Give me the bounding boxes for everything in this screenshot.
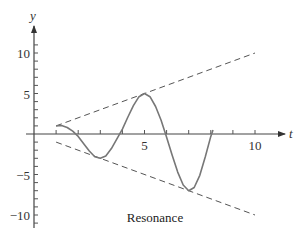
y-tick-label: 5 (24, 87, 31, 102)
x-tick-label: 10 (249, 138, 262, 153)
x-axis-label: t (289, 126, 293, 141)
y-tick-label: 10 (17, 46, 30, 61)
y-tick-label: −10 (10, 208, 30, 223)
solution-line (56, 94, 213, 191)
envelope-line (56, 53, 255, 126)
envelope-line (56, 142, 255, 215)
solution-curve (56, 94, 213, 191)
y-tick-label: −5 (16, 168, 30, 183)
y-axis-label: y (28, 8, 36, 23)
x-tick-label: 5 (141, 138, 148, 153)
chart-caption: Resonance (127, 210, 184, 225)
resonance-chart: 510105−5−10 t y Resonance (0, 0, 297, 238)
